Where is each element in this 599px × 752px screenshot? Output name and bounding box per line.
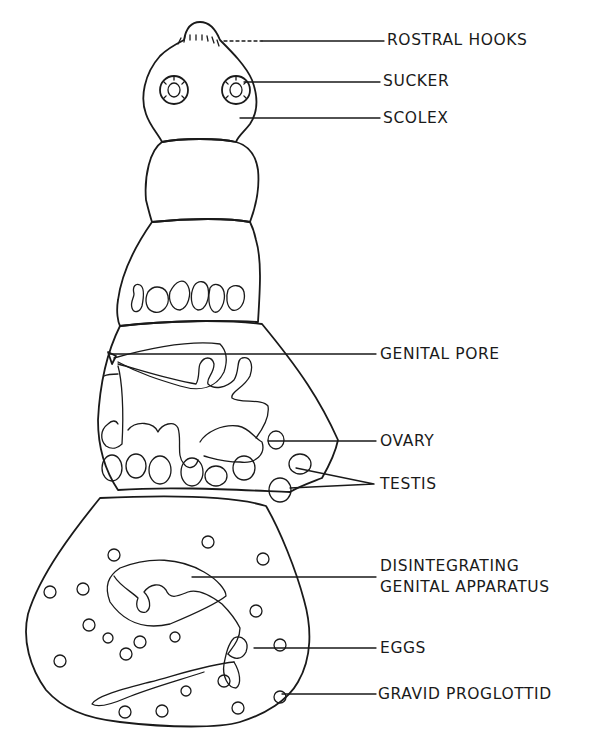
label-disintegrating-line1: DISINTEGRATING: [380, 557, 519, 575]
label-sucker: SUCKER: [383, 72, 449, 90]
immature-proglottid: [146, 139, 259, 222]
scolex-shape: [143, 22, 256, 142]
gravid-proglottid: [26, 496, 309, 726]
label-rostral-hooks: ROSTRAL HOOKS: [387, 31, 527, 49]
sexual-proglottid: [98, 321, 338, 502]
label-ovary: OVARY: [380, 432, 434, 450]
label-testis: TESTIS: [380, 475, 437, 493]
tapeworm-diagram: ROSTRAL HOOKS SUCKER SCOLEX GENITAL PORE…: [0, 0, 599, 752]
label-disintegrating-line2: GENITAL APPARATUS: [380, 578, 550, 596]
mature-proglottid: [117, 219, 260, 326]
label-genital-pore: GENITAL PORE: [380, 345, 500, 363]
label-eggs: EGGS: [380, 639, 426, 657]
tapeworm-drawing: [0, 0, 599, 752]
label-gravid-proglottid: GRAVID PROGLOTTID: [378, 685, 552, 703]
leader-lines: [110, 41, 384, 694]
label-scolex: SCOLEX: [383, 109, 449, 127]
